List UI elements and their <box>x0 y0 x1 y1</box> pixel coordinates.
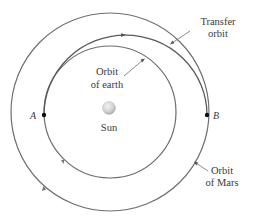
transfer-leader-arrow-icon <box>170 41 175 45</box>
point-b <box>205 113 209 117</box>
sun-icon <box>103 102 116 115</box>
mars-orbit-label-line2: of Mars <box>206 177 239 188</box>
point-a <box>42 113 46 117</box>
earth-arrow-icon <box>61 159 65 164</box>
transfer-arrow-icon <box>121 33 126 37</box>
mars-orbit-leader <box>196 163 208 171</box>
point-a-label: A <box>29 110 37 121</box>
orbit-diagram: Sun A B Transfer orbit Orbit of earth Or… <box>0 0 254 219</box>
mars-orbit-label-line1: Orbit <box>211 165 233 176</box>
transfer-orbit-label-line1: Transfer <box>200 16 236 27</box>
earth-orbit-label-line1: Orbit <box>96 66 118 77</box>
sun-label: Sun <box>101 122 118 133</box>
point-b-label: B <box>213 110 219 121</box>
earth-orbit-label-line2: of earth <box>91 79 124 90</box>
transfer-orbit-label-line2: orbit <box>208 28 228 39</box>
earth-orbit-leader <box>124 60 143 76</box>
